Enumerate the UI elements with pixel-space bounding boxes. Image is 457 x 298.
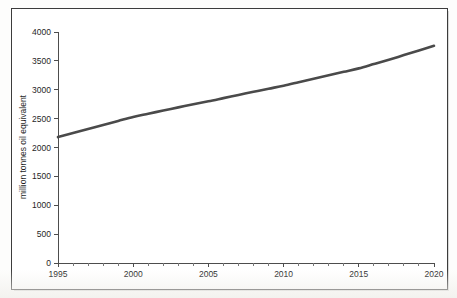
y-axis-tick-labels: 05001000150020002500300035004000 bbox=[32, 27, 51, 268]
x-tick-label-2005: 2005 bbox=[199, 269, 218, 279]
y-tick-label-1500: 1500 bbox=[32, 171, 51, 181]
y-axis-ticks bbox=[54, 32, 58, 263]
chart-svg: 05001000150020002500300035004000 1995200… bbox=[12, 9, 449, 291]
y-axis-title: million tonnes oil equivalent bbox=[18, 94, 28, 199]
y-tick-label-3500: 3500 bbox=[32, 56, 51, 66]
x-tick-label-1995: 1995 bbox=[49, 269, 68, 279]
x-tick-label-2015: 2015 bbox=[349, 269, 368, 279]
x-tick-label-2010: 2010 bbox=[274, 269, 293, 279]
x-tick-label-2000: 2000 bbox=[124, 269, 143, 279]
line-chart: 05001000150020002500300035004000 1995200… bbox=[12, 9, 449, 291]
clipped-title-remnant bbox=[0, 0, 457, 7]
y-tick-label-3000: 3000 bbox=[32, 85, 51, 95]
y-tick-label-500: 500 bbox=[37, 229, 51, 239]
x-axis-ticks bbox=[58, 263, 434, 267]
figure-frame: 05001000150020002500300035004000 1995200… bbox=[11, 8, 448, 290]
x-axis-tick-labels: 199520002005201020152020 bbox=[49, 269, 444, 279]
y-tick-label-0: 0 bbox=[46, 258, 51, 268]
y-tick-label-1000: 1000 bbox=[32, 200, 51, 210]
y-tick-label-2500: 2500 bbox=[32, 114, 51, 124]
x-tick-label-2020: 2020 bbox=[425, 269, 444, 279]
y-tick-label-2000: 2000 bbox=[32, 143, 51, 153]
y-tick-label-4000: 4000 bbox=[32, 27, 51, 37]
scanned-page: 05001000150020002500300035004000 1995200… bbox=[0, 0, 457, 298]
plot-background bbox=[58, 32, 434, 263]
